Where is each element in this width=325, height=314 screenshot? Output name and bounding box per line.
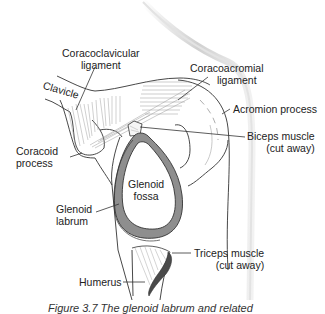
label-line: Triceps muscle [194,247,264,259]
label-line: Coracoclavicular [62,47,140,59]
label-triceps-muscle: Triceps muscle (cut away) [194,247,264,271]
label-line: Coracoid [16,145,58,157]
label-coracoid-process: Coracoid process [16,145,58,169]
label-line: Glenoid [56,203,92,215]
label-line: (cut away) [247,142,315,154]
coracoclavicular-ligament [68,96,120,148]
label-coracoacromial-ligament: Coracoacromial ligament [190,62,264,86]
label-acromion-process: Acromion process [233,103,317,115]
humerus-left [132,250,133,296]
triceps-cut [149,252,172,296]
label-line: ligament [62,59,140,71]
label-glenoid-fossa: Glenoid fossa [128,178,164,202]
label-line: (cut away) [194,259,264,271]
label-glenoid-labrum: Glenoid labrum [56,203,92,227]
label-line: process [16,157,58,169]
label-line: Coracoacromial [190,62,264,74]
label-line: Glenoid [128,178,164,190]
figure-caption: Figure 3.7 The glenoid labrum and relate… [48,302,253,314]
label-line: labrum [56,215,92,227]
label-line: Biceps muscle [247,130,315,142]
label-coracoclavicular-ligament: Coracoclavicular ligament [62,47,140,71]
label-line: fossa [128,190,164,202]
label-biceps-muscle: Biceps muscle (cut away) [247,130,315,154]
label-humerus: Humerus [79,276,122,288]
label-line: ligament [190,74,264,86]
